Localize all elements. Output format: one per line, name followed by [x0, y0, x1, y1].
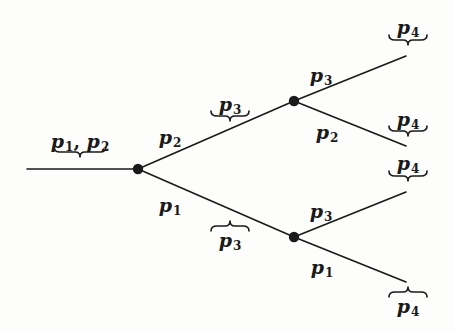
edge-label-root-lower: p1 [159, 196, 182, 217]
edge-label-root-upper: p2 [159, 128, 182, 149]
brace-p3-lower-label: p3 [219, 231, 242, 252]
edge-upper-bottom [294, 101, 406, 146]
brace-p1p2-label: p1, p2 [51, 132, 110, 153]
edge-label-upper-bottom: p2 [316, 123, 339, 144]
node-upper [289, 96, 299, 106]
tree-diagram-canvas [0, 0, 454, 333]
node-root [133, 164, 143, 174]
brace-p4-3-label: p4 [397, 154, 420, 175]
edge-label-lower-top: p3 [310, 202, 333, 223]
brace-p4-2-label: p4 [397, 110, 420, 131]
edge-label-lower-bottom: p1 [311, 258, 334, 279]
node-lower [289, 232, 299, 242]
edge-label-upper-top: p3 [310, 66, 333, 87]
brace-p4-4-label: p4 [397, 297, 420, 318]
brace-p3-upper-label: p3 [219, 95, 242, 116]
brace-p4-1-label: p4 [397, 18, 420, 39]
tree-diagram: p2p1p3p2p3p1p1, p2p3p3p4p4p4p4 [0, 0, 454, 333]
